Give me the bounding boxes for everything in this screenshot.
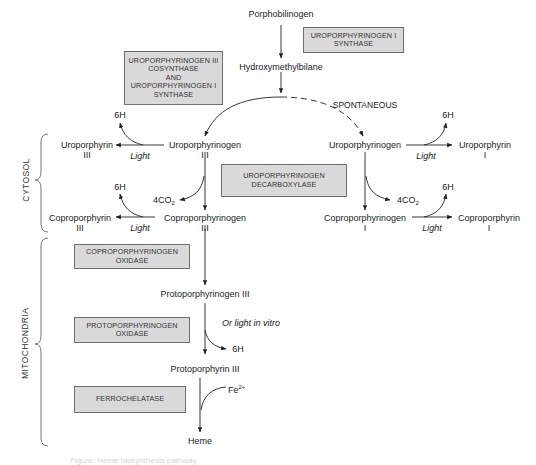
co2-subscript: 2 [172, 200, 175, 206]
line: OXIDASE [116, 257, 149, 266]
light-label: Light [420, 223, 444, 233]
isomer: I [455, 150, 515, 160]
cytosol-label: CYTOSOL [21, 158, 31, 202]
line: SYNTHASE [154, 91, 194, 100]
isomer: III [150, 223, 260, 233]
six-h-label: 6H [110, 182, 130, 192]
heme-biosynthesis-diagram: CYTOSOL MITOCHONDRIA Porphobilinogen Hyd… [0, 0, 536, 465]
name: Coproporphyrinogen [312, 213, 418, 223]
spontaneous-label: SPONTANEOUS [330, 100, 400, 110]
hydroxymethylbilane: Hydroxymethylbilane [236, 62, 326, 72]
enzyme-protoporphyrinogen-oxidase: PROTOPORPHYRINOGEN OXIDASE [74, 317, 190, 343]
iron-label: Fe2+ [228, 382, 248, 395]
mitochondria-label: MITOCHONDRIA [20, 309, 30, 379]
six-h-label: 6H [110, 110, 130, 120]
isomer: I [320, 150, 410, 160]
name: Uroporphyrin [57, 140, 117, 150]
name: Coproporphyrin [453, 213, 525, 223]
light-label: Light [414, 151, 438, 161]
fe-text: Fe [228, 385, 239, 395]
uroporphyrinogen-iii: Uroporphyrinogen III [160, 140, 250, 160]
isomer: III [44, 223, 116, 233]
isomer: I [312, 223, 418, 233]
isomer: I [453, 223, 525, 233]
co2-text: 4CO [397, 195, 416, 205]
uroporphyrin-i: Uroporphyrin I [455, 140, 515, 160]
isomer: III [160, 150, 250, 160]
porphobilinogen: Porphobilinogen [236, 9, 326, 19]
line: DECARBOXYLASE [252, 181, 317, 190]
light-label: Light [128, 223, 152, 233]
name: Uroporphyrinogen [320, 140, 410, 150]
enzyme-uroporphyrinogen-decarboxylase: UROPORPHYRINOGEN DECARBOXYLASE [221, 164, 347, 197]
figure-caption: Figure: Heme biosynthesis pathway [70, 456, 197, 465]
uroporphyrin-iii: Uroporphyrin III [57, 140, 117, 160]
uroporphyrinogen-i: Uroporphyrinogen I [320, 140, 410, 160]
enzyme-coproporphyrinogen-oxidase: COPROPORPHYRINOGEN OXIDASE [74, 244, 190, 269]
six-h-label: 6H [438, 182, 458, 192]
co2-label: 4CO2 [148, 195, 180, 208]
coproporphyrin-i: Coproporphyrin I [453, 213, 525, 233]
fe-charge: 2+ [239, 384, 246, 390]
line: OXIDASE [116, 330, 149, 339]
co2-text: 4CO [153, 195, 172, 205]
light-label: Light [128, 151, 152, 161]
coproporphyrinogen-iii: Coproporphyrinogen III [150, 213, 260, 233]
line: SYNTHASE [334, 40, 374, 49]
line: FERROCHELATASE [96, 395, 164, 404]
co2-subscript: 2 [416, 200, 419, 206]
coproporphyrinogen-i: Coproporphyrinogen I [312, 213, 418, 233]
protoporphyrinogen-iii: Protoporphyrinogen III [150, 289, 260, 299]
coproporphyrin-iii: Coproporphyrin III [44, 213, 116, 233]
or-light-in-vitro-label: Or light in vitro [222, 318, 292, 328]
name: Uroporphyrin [455, 140, 515, 150]
name: Coproporphyrin [44, 213, 116, 223]
name: Coproporphyrinogen [150, 213, 260, 223]
isomer: III [57, 150, 117, 160]
heme: Heme [180, 436, 220, 446]
enzyme-uroporphyrinogen-i-synthase: UROPORPHYRINOGEN I SYNTHASE [303, 27, 404, 53]
six-h-label: 6H [228, 344, 248, 354]
name: Uroporphyrinogen [160, 140, 250, 150]
enzyme-uroporphyrinogen-iii-cosynthase: UROPORPHYRINOGEN III COSYNTHASE AND UROP… [124, 51, 223, 105]
protoporphyrin-iii: Protoporphyrin III [160, 364, 250, 374]
six-h-label: 6H [438, 110, 458, 120]
co2-label: 4CO2 [392, 195, 424, 208]
enzyme-ferrochelatase: FERROCHELATASE [74, 386, 186, 413]
